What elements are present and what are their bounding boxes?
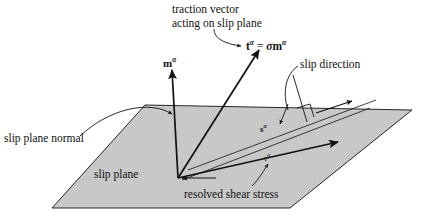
slip-direction-label-leader [285,66,298,110]
normal-vector-symbol-base: m [163,57,172,69]
shear-stress-symbol: τα [264,152,270,164]
resolved-shear-stress-label: resolved shear stress [184,188,279,202]
traction-equation: tα = σmα [246,39,286,53]
traction-symbol-superscript: α [250,38,254,47]
traction-vector-label-line2: acting on slip plane [172,17,262,31]
traction-label-leader [214,29,241,46]
slip-plane-label: slip plane [94,168,138,182]
equals-sign: = [257,40,264,52]
slip-direction-symbol-superscript: α [264,123,267,129]
slip-plane-normal-label: slip plane normal [4,132,84,146]
normal-vector-symbol: mα [163,56,176,70]
normal-vector-symbol-superscript: α [172,56,176,64]
traction-vector-label: traction vector acting on slip plane [172,3,262,30]
shear-stress-symbol-superscript: α [267,152,270,158]
normal-symbol-in-equation: m [273,40,283,52]
slip-direction-symbol: sα [260,123,267,135]
slip-direction-label: slip direction [300,58,360,72]
slip-system-diagram: traction vector acting on slip plane tα … [0,0,422,222]
traction-vector-label-line1: traction vector [172,3,262,17]
normal-symbol-in-equation-superscript: α [282,38,286,47]
